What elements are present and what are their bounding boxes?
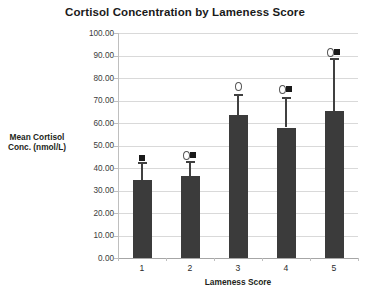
y-axis-tick-label: 20.00 bbox=[66, 209, 114, 218]
error-bar-line bbox=[333, 58, 335, 111]
y-axis-tick-label: 90.00 bbox=[66, 51, 114, 60]
x-axis-tick-label: 3 bbox=[218, 263, 258, 273]
y-axis-title: Mean Cortisol Conc. (nmol/L) bbox=[2, 132, 72, 152]
error-bar-cap bbox=[330, 58, 339, 60]
bar bbox=[133, 180, 152, 258]
significance-marker-square-icon bbox=[190, 152, 196, 158]
x-axis-tick-label: 4 bbox=[266, 263, 306, 273]
significance-marker-square-icon bbox=[334, 49, 340, 55]
y-axis-tick-label: 30.00 bbox=[66, 186, 114, 195]
y-axis-tick-label: 100.00 bbox=[66, 29, 114, 38]
y-axis-tick-label: 10.00 bbox=[66, 231, 114, 240]
gridline bbox=[118, 56, 358, 57]
gridline bbox=[118, 33, 358, 34]
bar bbox=[181, 176, 200, 258]
x-axis-tick-mark bbox=[214, 258, 215, 261]
significance-marker-circle-icon bbox=[279, 85, 286, 94]
error-bar-cap bbox=[234, 94, 243, 96]
x-axis-tick-mark bbox=[118, 258, 119, 261]
significance-marker-circle-icon bbox=[183, 151, 190, 160]
error-bar-line bbox=[141, 162, 143, 180]
error-bar-line bbox=[285, 97, 287, 127]
y-axis-tick-label: 60.00 bbox=[66, 119, 114, 128]
y-axis-tick-label: 0.00 bbox=[66, 254, 114, 263]
plot-area bbox=[118, 33, 358, 258]
x-axis-title: Lameness Score bbox=[118, 277, 358, 287]
x-axis-tick-mark bbox=[310, 258, 311, 261]
significance-marker-circle-icon bbox=[235, 82, 242, 91]
y-axis-tick-label: 70.00 bbox=[66, 96, 114, 105]
x-axis-tick-label: 2 bbox=[170, 263, 210, 273]
chart-title: Cortisol Concentration by Lameness Score bbox=[0, 6, 370, 18]
x-axis-tick-mark bbox=[358, 258, 359, 261]
x-axis-tick-label: 1 bbox=[122, 263, 162, 273]
y-axis-tick-label: 80.00 bbox=[66, 74, 114, 83]
bar bbox=[325, 111, 344, 258]
significance-marker-square-icon bbox=[139, 155, 145, 161]
y-axis-title-line-2: Conc. (nmol/L) bbox=[2, 142, 72, 152]
gridline bbox=[118, 78, 358, 79]
x-axis-tick-label: 5 bbox=[314, 263, 354, 273]
y-axis-tick-label: 40.00 bbox=[66, 164, 114, 173]
y-axis-tick-label: 50.00 bbox=[66, 141, 114, 150]
y-axis-line bbox=[118, 33, 119, 258]
x-axis-tick-mark bbox=[262, 258, 263, 261]
significance-marker-circle-icon bbox=[327, 48, 334, 57]
y-axis-title-line-1: Mean Cortisol bbox=[2, 132, 72, 142]
chart-container: Cortisol Concentration by Lameness Score… bbox=[0, 0, 370, 296]
x-axis-tick-mark bbox=[166, 258, 167, 261]
bar bbox=[277, 128, 296, 259]
significance-marker-square-icon bbox=[286, 86, 292, 92]
error-bar-line bbox=[237, 94, 239, 116]
x-axis-line bbox=[118, 258, 358, 259]
error-bar-cap bbox=[282, 97, 291, 99]
error-bar-cap bbox=[138, 162, 147, 164]
error-bar-line bbox=[189, 161, 191, 176]
bar bbox=[229, 115, 248, 258]
error-bar-cap bbox=[186, 161, 195, 163]
